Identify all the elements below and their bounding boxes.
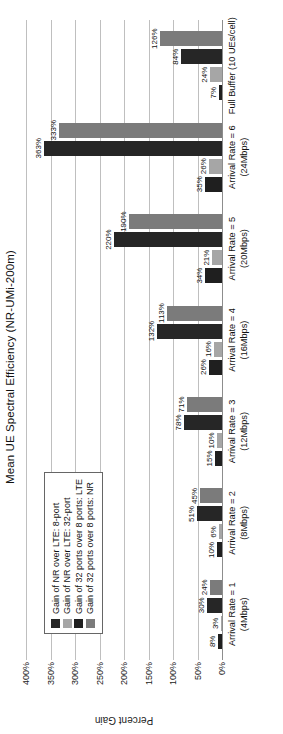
legend-label: Gain of NR over LTE: 8-port xyxy=(51,503,61,614)
bar-value-label: 45% xyxy=(190,488,199,504)
bar: 84% xyxy=(181,49,222,64)
bar-group: 35%26%363%333%Arrival Rate = 6(24Mbps) xyxy=(26,111,222,202)
category-label: Arrival Rate = 3(12Mbps) xyxy=(227,400,250,464)
chart-rotation-wrapper: Mean UE Spectral Efficiency (NR-UMi-200m… xyxy=(0,0,283,734)
category-label-line: (4Mbps) xyxy=(239,583,251,647)
bar-value-label: 220% xyxy=(104,229,113,249)
bar-value-label: 26% xyxy=(199,359,208,375)
bar-group: 34%21%220%190%Arrival Rate = 5(20Mbps) xyxy=(26,203,222,294)
category-label: Arrival Rate = 2(8Mbps) xyxy=(227,491,250,555)
bar-value-label: 6% xyxy=(209,526,218,538)
bar-value-label: 7% xyxy=(209,87,218,99)
category-label-line: (16Mbps) xyxy=(239,308,251,372)
bar: 51% xyxy=(197,506,222,521)
bar-value-label: 3% xyxy=(211,618,220,630)
bar: 24% xyxy=(210,67,222,82)
bar-value-label: 363% xyxy=(34,138,43,158)
bar: 16% xyxy=(214,342,222,357)
bar: 45% xyxy=(200,488,222,503)
bar-value-label: 113% xyxy=(157,303,166,323)
bar-group: 7%24%84%126%Full Buffer (10 UEs/cell) xyxy=(26,20,222,111)
legend-item: Gain of 32 ports over 8 ports: NR xyxy=(85,479,95,628)
bar-value-label: 51% xyxy=(187,506,196,522)
bar: 113% xyxy=(167,306,222,321)
bar-value-label: 24% xyxy=(200,579,209,595)
legend-label: Gain of 32 ports over 8 ports: LTE xyxy=(74,479,84,614)
legend-swatch-icon xyxy=(74,619,83,628)
category-label-line: (12Mbps) xyxy=(239,400,251,464)
bar-value-label: 16% xyxy=(204,341,213,357)
bar-group: 15%10%78%71%Arrival Rate = 3(12Mbps) xyxy=(26,386,222,477)
bar-value-label: 34% xyxy=(195,268,204,284)
category-label-line: (20Mbps) xyxy=(239,217,251,281)
y-axis-tick-label: 150% xyxy=(144,662,154,722)
bar-value-label: 190% xyxy=(119,211,128,231)
bar-value-label: 333% xyxy=(49,120,58,140)
y-axis-tick-label: 200% xyxy=(119,662,129,722)
y-axis-tick-label: 0% xyxy=(217,662,227,722)
y-axis-tick-label: 350% xyxy=(46,662,56,722)
legend-swatch-icon xyxy=(51,619,60,628)
bar-value-label: 30% xyxy=(197,597,206,613)
bar-value-label: 132% xyxy=(147,321,156,341)
bar: 7% xyxy=(219,85,222,100)
category-label-line: Full Buffer (10 UEs/cell) xyxy=(227,17,239,114)
bar-value-label: 10% xyxy=(207,542,216,558)
category-label-line: Arrival Rate = 5 xyxy=(227,217,239,281)
y-axis-tick-label: 250% xyxy=(95,662,105,722)
bar-value-label: 78% xyxy=(174,414,183,430)
bar-value-label: 10% xyxy=(207,432,216,448)
bar: 71% xyxy=(187,397,222,412)
category-label-line: Arrival Rate = 3 xyxy=(227,400,239,464)
y-axis-tick-label: 400% xyxy=(21,662,31,722)
category-label-line: (24Mbps) xyxy=(239,125,251,189)
bar: 190% xyxy=(129,214,222,229)
chart-title: Mean UE Spectral Efficiency (NR-UMi-200m… xyxy=(4,0,16,734)
legend-item: Gain of NR over LTE: 8-port xyxy=(51,479,61,628)
y-axis-tick-label: 100% xyxy=(168,662,178,722)
bar: 24% xyxy=(210,580,222,595)
bar-value-label: 8% xyxy=(208,636,217,648)
category-label: Arrival Rate = 4(16Mbps) xyxy=(227,308,250,372)
bar-value-label: 35% xyxy=(195,176,204,192)
bar: 78% xyxy=(184,415,222,430)
category-label-line: Arrival Rate = 4 xyxy=(227,308,239,372)
legend-item: Gain of 32 ports over 8 ports: LTE xyxy=(74,479,84,628)
legend-label: Gain of 32 ports over 8 ports: NR xyxy=(85,482,95,614)
y-axis-tick-label: 300% xyxy=(70,662,80,722)
bar: 126% xyxy=(160,31,222,46)
category-label: Arrival Rate = 1(4Mbps) xyxy=(227,583,250,647)
bar-value-label: 21% xyxy=(202,250,211,266)
bar: 10% xyxy=(217,542,222,557)
category-label: Arrival Rate = 5(20Mbps) xyxy=(227,217,250,281)
legend-item: Gain of NR over LTE: 32-port xyxy=(62,479,72,628)
bar-value-label: 15% xyxy=(205,450,214,466)
category-label-line: Arrival Rate = 1 xyxy=(227,583,239,647)
bar: 30% xyxy=(207,598,222,613)
chart-legend: Gain of NR over LTE: 8-portGain of NR ov… xyxy=(44,472,103,634)
bar: 15% xyxy=(215,451,222,466)
bar: 35% xyxy=(205,177,222,192)
bar-chart: Mean UE Spectral Efficiency (NR-UMi-200m… xyxy=(0,0,283,734)
bar: 6% xyxy=(219,524,222,539)
bar: 34% xyxy=(205,268,222,283)
legend-label: Gain of NR over LTE: 32-port xyxy=(62,498,72,614)
bar: 3% xyxy=(221,616,222,631)
bar-group: 26%16%132%113%Arrival Rate = 4(16Mbps) xyxy=(26,294,222,385)
bar-value-label: 26% xyxy=(199,158,208,174)
bar: 220% xyxy=(114,232,222,247)
bar: 363% xyxy=(44,141,222,156)
bar-value-label: 84% xyxy=(171,49,180,65)
bar-value-label: 71% xyxy=(177,396,186,412)
bar: 333% xyxy=(59,123,222,138)
bar: 26% xyxy=(209,360,222,375)
bar: 132% xyxy=(157,324,222,339)
y-axis-tick-label: 50% xyxy=(193,662,203,722)
legend-swatch-icon xyxy=(63,619,72,628)
category-label-line: Arrival Rate = 6 xyxy=(227,125,239,189)
bar-value-label: 24% xyxy=(200,67,209,83)
bar: 21% xyxy=(212,250,222,265)
category-label-line: (8Mbps) xyxy=(239,491,251,555)
bar: 8% xyxy=(218,634,222,649)
category-label: Full Buffer (10 UEs/cell) xyxy=(227,17,239,114)
